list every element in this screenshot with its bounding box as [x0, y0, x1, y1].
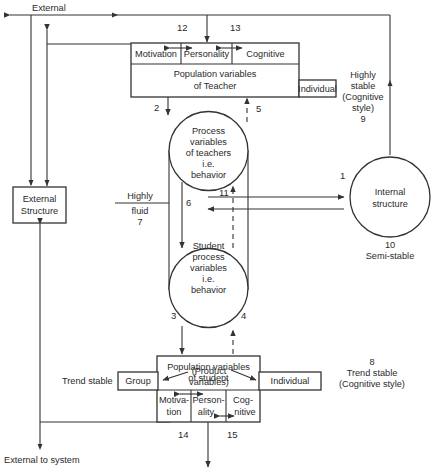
svg-text:nitive: nitive — [234, 407, 255, 417]
teacher-cognitive: Cognitive — [246, 49, 284, 59]
svg-text:Trend stable: Trend stable — [347, 368, 398, 378]
svg-text:15: 15 — [227, 429, 238, 440]
svg-text:of Teacher: of Teacher — [194, 81, 237, 91]
svg-text:6: 6 — [186, 197, 191, 208]
svg-text:variables: variables — [190, 137, 227, 147]
internal-structure-circle: Internal structure 10 Semi-stable — [350, 157, 430, 261]
student-group: Group — [125, 376, 151, 386]
svg-text:7: 7 — [137, 217, 142, 227]
svg-text:2: 2 — [154, 102, 159, 113]
student-cells: Motiva- tion Person- ality Cog- nitive 1… — [159, 394, 256, 467]
svg-text:10: 10 — [385, 240, 395, 250]
teacher-personality: Personality — [184, 49, 230, 59]
svg-text:Motiva-: Motiva- — [159, 395, 189, 405]
svg-text:External: External — [23, 194, 57, 204]
external-structure-box: External Structure — [13, 187, 66, 223]
svg-text:tion: tion — [167, 407, 182, 417]
svg-text:Process: Process — [192, 126, 226, 136]
svg-text:structure: structure — [372, 199, 408, 209]
svg-text:Highly: Highly — [350, 70, 376, 80]
teacher-motivation: Motivation — [135, 49, 177, 59]
svg-text:Student: Student — [193, 241, 225, 251]
svg-text:stable: stable — [351, 81, 376, 91]
svg-text:behavior: behavior — [191, 285, 226, 295]
trend-stable-right: 8 Trend stable (Cognitive style) — [339, 357, 405, 389]
svg-text:(Product: (Product — [192, 366, 227, 376]
svg-text:Semi-stable: Semi-stable — [366, 251, 415, 261]
external-to-system-line: External to system — [4, 224, 170, 465]
teacher-student-interaction-diagram: External External Structure External to … — [0, 0, 432, 474]
svg-text:(Cognitive style): (Cognitive style) — [339, 379, 405, 389]
external-to-system-label: External to system — [4, 455, 80, 465]
svg-text:Highly: Highly — [127, 191, 153, 201]
svg-text:8: 8 — [369, 357, 374, 367]
svg-text:(Cognitive: (Cognitive — [342, 92, 383, 102]
process-capsule: Process variables of teachers i.e. behav… — [169, 112, 248, 328]
svg-text:Cog-: Cog- — [233, 395, 253, 405]
svg-text:fluid: fluid — [132, 206, 149, 216]
svg-text:13: 13 — [230, 22, 241, 33]
highly-stable-caption: Highly stable (Cognitive style) 9 — [342, 70, 383, 124]
trend-stable-left: Trend stable — [62, 376, 113, 386]
highly-fluid-caption: Highly fluid 7 — [115, 191, 169, 227]
svg-text:Population variables: Population variables — [174, 69, 257, 79]
student-product-row: Group Individual (Product variables) Tre… — [62, 366, 321, 390]
svg-text:of teachers: of teachers — [186, 148, 232, 158]
left-connectors — [29, 15, 133, 186]
svg-text:style): style) — [352, 103, 374, 113]
svg-text:12: 12 — [177, 22, 188, 33]
external-label: External — [32, 3, 66, 13]
svg-text:3: 3 — [171, 310, 176, 321]
svg-text:9: 9 — [360, 114, 365, 124]
teacher-population-box: Motivation Personality Cognitive Populat… — [131, 15, 337, 97]
svg-text:Internal: Internal — [375, 187, 406, 197]
teacher-individual: Individual — [298, 84, 337, 94]
svg-text:behavior: behavior — [191, 170, 226, 180]
svg-text:14: 14 — [178, 429, 189, 440]
student-individual: Individual — [271, 376, 310, 386]
svg-text:i.e.: i.e. — [202, 159, 214, 169]
svg-text:ality: ality — [198, 407, 215, 417]
svg-text:4: 4 — [241, 310, 246, 321]
svg-text:process: process — [192, 252, 225, 262]
svg-text:variables): variables) — [189, 377, 229, 387]
svg-text:variables: variables — [190, 263, 227, 273]
svg-text:11: 11 — [219, 187, 229, 198]
svg-text:1: 1 — [340, 170, 345, 181]
svg-text:5: 5 — [256, 103, 261, 114]
svg-text:Structure: Structure — [21, 206, 58, 216]
svg-text:Person-: Person- — [192, 395, 224, 405]
svg-text:i.e.: i.e. — [202, 274, 214, 284]
